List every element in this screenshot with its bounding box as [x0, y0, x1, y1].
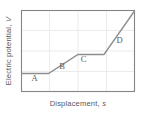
- y-axis-title: Electric potential,V: [4, 16, 13, 85]
- x-axis-title-main: Displacement,: [50, 99, 100, 108]
- x-axis-title-unit: s: [102, 99, 106, 108]
- segment-label-b: B: [59, 61, 65, 71]
- chart-figure: A B C D Displacement,s Electric potentia…: [0, 0, 142, 116]
- x-axis-title: Displacement,s: [50, 99, 107, 108]
- segment-label-c: C: [81, 54, 87, 64]
- y-axis-title-unit: V: [4, 16, 13, 22]
- y-axis-title-main: Electric potential,: [4, 25, 13, 86]
- electric-potential-vs-displacement-chart: A B C D Displacement,s Electric potentia…: [0, 0, 142, 116]
- segment-label-a: A: [31, 73, 38, 83]
- segment-label-d: D: [116, 35, 122, 45]
